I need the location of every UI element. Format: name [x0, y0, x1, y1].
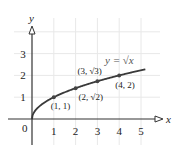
plot-area: x y 0 12345123 (1, 1)(2, √2)(3, √3)(4, 2…	[0, 0, 181, 155]
y-axis-arrow-icon	[29, 26, 35, 34]
x-axis-arrow-icon	[155, 116, 163, 122]
x-axis-label: x	[165, 113, 171, 125]
y-tick-label: 2	[20, 69, 26, 81]
y-tick-label: 3	[20, 48, 26, 60]
x-tick-label: 3	[95, 125, 101, 137]
data-point-label: (4, 2)	[115, 80, 135, 90]
origin-label: 0	[22, 122, 28, 134]
x-tick-label: 5	[138, 125, 144, 137]
data-point-label: (1, 1)	[51, 101, 71, 111]
x-tick-label: 4	[116, 125, 122, 137]
sqrt-function-graph: x y 0 12345123 (1, 1)(2, √2)(3, √3)(4, 2…	[0, 0, 181, 155]
data-points: (1, 1)(2, √2)(3, √3)(4, 2)	[51, 66, 135, 111]
x-tick-label: 1	[51, 125, 57, 137]
data-point-marker	[117, 73, 121, 77]
curve-label: y = √x	[104, 54, 134, 66]
data-point-label: (3, √3)	[77, 66, 101, 76]
data-point-marker	[52, 95, 56, 99]
y-tick-label: 1	[20, 91, 26, 103]
data-point-label: (2, √2)	[79, 92, 103, 102]
data-point-marker	[95, 79, 99, 83]
data-point-marker	[74, 86, 78, 90]
x-tick-label: 2	[73, 125, 79, 137]
y-axis-label: y	[28, 12, 34, 24]
